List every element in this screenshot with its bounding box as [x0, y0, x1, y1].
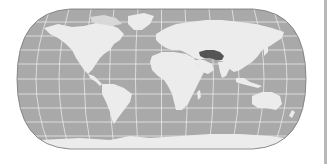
world-map	[0, 0, 329, 164]
world-map-svg	[0, 0, 329, 164]
right-edge-divider	[324, 0, 327, 164]
